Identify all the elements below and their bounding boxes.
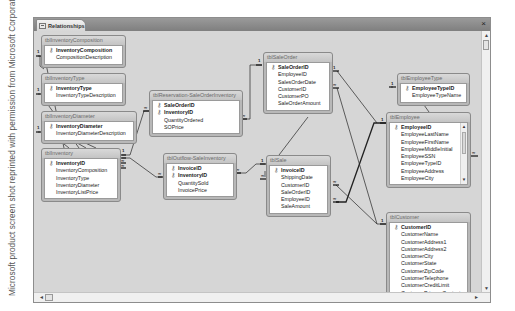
relationships-canvas[interactable]: 1 1 1 1 ∞ ∞ ∞ ∞ ∞ ∞ 1 1 ∞ 1 ∞ ∞ ∞ 1 1 1 … — [34, 31, 482, 293]
cardinality-many: ∞ — [158, 171, 161, 176]
field-row[interactable]: ⚷InventoryID — [153, 109, 239, 116]
field-row[interactable]: EmployeeMiddleInitial — [390, 146, 467, 153]
cardinality-one: 1 — [381, 117, 383, 122]
field-row[interactable]: CustomerZipCode — [390, 268, 467, 275]
cardinality-many: ∞ — [333, 196, 336, 201]
table-title[interactable]: tblInventoryDiameter — [42, 112, 136, 121]
field-row[interactable]: ⚷CustomerID — [390, 224, 467, 231]
field-row[interactable]: ⚷InventoryID — [167, 172, 233, 179]
table-title[interactable]: tblInventory — [42, 149, 120, 158]
scroll-down-icon[interactable]: ▼ — [461, 177, 467, 183]
table-title[interactable]: tblSaleOrder — [264, 53, 332, 62]
field-row[interactable]: SalesOrderDate — [267, 79, 329, 86]
scroll-up-icon[interactable]: ▲ — [483, 32, 490, 39]
field-row[interactable]: ⚷InventoryDiameter — [45, 123, 133, 130]
field-row[interactable]: EmployeeID — [270, 196, 327, 203]
field-row[interactable]: ⚷SaleOrderID — [153, 102, 239, 109]
table-title[interactable]: tblReservation-SaleOrderInventory — [150, 91, 242, 100]
primary-key-icon: ⚷ — [271, 64, 275, 71]
field-row[interactable]: EmployeeTypeID — [390, 160, 467, 167]
vertical-scrollbar[interactable]: ▲ ▼ — [481, 31, 490, 293]
scroll-left-icon[interactable]: ◄ — [38, 294, 45, 301]
tab-relationships[interactable]: Relationships — [36, 19, 86, 31]
table-inventory[interactable]: tblInventory ⚷InventoryID InventoryCompo… — [41, 148, 121, 202]
horizontal-scrollbar[interactable]: ◄ ► — [34, 292, 490, 302]
field-row[interactable]: CustomerPO — [267, 93, 329, 100]
table-inventory-type[interactable]: tblInventoryType ⚷InventoryType Inventor… — [41, 73, 126, 106]
table-inventory-composition[interactable]: tblInventoryComposition ⚷InventoryCompos… — [41, 35, 126, 68]
copyright-credit: Microsoft product screen shot reprinted … — [8, 16, 17, 296]
primary-key-icon: ⚷ — [171, 165, 175, 172]
field-row[interactable]: SaleOrderID — [270, 189, 327, 196]
field-row[interactable]: QuantitySold — [167, 180, 233, 187]
cardinality-one: 1 — [381, 218, 383, 223]
field-row[interactable]: ⚷InventoryComposition — [45, 47, 122, 54]
field-row[interactable]: CustomerAddress2 — [390, 246, 467, 253]
field-list: ⚷CustomerID CustomerName CustomerAddress… — [389, 222, 468, 293]
field-row[interactable]: InventoryListPrice — [45, 189, 117, 196]
scroll-thumb[interactable] — [483, 40, 489, 50]
field-row[interactable]: ⚷InvoiceID — [167, 165, 233, 172]
field-row[interactable]: CustomerID — [267, 86, 329, 93]
cardinality-one: 1 — [258, 58, 260, 63]
field-row[interactable]: InventoryType — [45, 175, 117, 182]
field-row[interactable]: ⚷InventoryID — [45, 160, 117, 167]
field-row[interactable]: EmployeeTypeName — [401, 92, 466, 99]
field-row[interactable]: EmployeeID — [267, 71, 329, 78]
table-sale-order[interactable]: tblSaleOrder ⚷SaleOrderID EmployeeID Sal… — [263, 52, 333, 114]
scroll-up-icon[interactable]: ▲ — [461, 124, 467, 130]
close-icon[interactable]: × — [481, 19, 486, 29]
field-row[interactable]: EmployeeFirstName — [390, 139, 467, 146]
field-row[interactable]: InventoryComposition — [45, 167, 117, 174]
table-title[interactable]: tblInventoryType — [42, 74, 125, 83]
field-row[interactable]: CustomerCreditLimit — [390, 282, 467, 289]
field-row[interactable]: SaleAmount — [270, 203, 327, 210]
table-title[interactable]: tblSale — [267, 156, 330, 165]
field-row[interactable]: CustomerID — [270, 182, 327, 189]
field-row[interactable]: EmployeeCity — [390, 175, 467, 182]
field-row[interactable]: SaleOrderAmount — [267, 100, 329, 107]
field-row[interactable]: InventoryTypeDescription — [45, 92, 122, 99]
employee-field-scrollbar[interactable]: ▲ ▼ — [460, 123, 467, 184]
cardinality-one: 1 — [37, 125, 39, 130]
table-title[interactable]: tblEmployee — [387, 113, 470, 122]
scroll-right-icon[interactable]: ► — [473, 294, 480, 301]
table-outflow-sale-inventory[interactable]: tblOutflow-SaleInventory ⚷InvoiceID ⚷Inv… — [163, 153, 237, 200]
table-employee-type[interactable]: tblEmployeeType ⚷EmployeeTypeID Employee… — [397, 73, 470, 106]
field-row[interactable]: CustomerCity — [390, 253, 467, 260]
primary-key-icon: ⚷ — [171, 172, 175, 179]
field-row[interactable]: QuantityOrdered — [153, 117, 239, 124]
scroll-thumb[interactable] — [462, 132, 466, 154]
table-title[interactable]: tblCustomer — [387, 213, 470, 222]
field-row[interactable]: CustomerState — [390, 260, 467, 267]
field-row[interactable]: CompositionDescription — [45, 54, 122, 61]
field-row[interactable]: CustomerAddress1 — [390, 239, 467, 246]
cardinality-one: 1 — [333, 65, 335, 70]
field-row[interactable]: ShippingDate — [270, 174, 327, 181]
field-row[interactable]: InventoryDiameter — [45, 182, 117, 189]
table-employee[interactable]: tblEmployee ⚷EmployeeID EmployeeLastName… — [386, 112, 471, 188]
field-row[interactable]: EmployeeSSN — [390, 153, 467, 160]
field-row[interactable]: CustomerName — [390, 231, 467, 238]
table-customer[interactable]: tblCustomer ⚷CustomerID CustomerName Cus… — [386, 212, 471, 293]
field-row[interactable]: ⚷EmployeeTypeID — [401, 85, 466, 92]
field-row[interactable]: ⚷EmployeeID — [390, 124, 467, 131]
field-row[interactable]: ⚷SaleOrderID — [267, 64, 329, 71]
field-row[interactable]: CustomerTelephone — [390, 275, 467, 282]
field-row[interactable]: InventoryDiameterDescription — [45, 130, 133, 137]
field-row[interactable]: ⚷InvoiceID — [270, 167, 327, 174]
table-reservation-sale-order-inventory[interactable]: tblReservation-SaleOrderInventory ⚷SaleO… — [149, 90, 243, 137]
table-title[interactable]: tblOutflow-SaleInventory — [164, 154, 236, 163]
scroll-thumb[interactable] — [45, 294, 53, 301]
table-sale[interactable]: tblSale ⚷InvoiceID ShippingDate Customer… — [266, 155, 331, 217]
table-inventory-diameter[interactable]: tblInventoryDiameter ⚷InventoryDiameter … — [41, 111, 137, 144]
table-title[interactable]: tblEmployeeType — [398, 74, 469, 83]
field-row[interactable]: ⚷InventoryType — [45, 85, 122, 92]
table-title[interactable]: tblInventoryComposition — [42, 36, 125, 45]
scroll-down-icon[interactable]: ▼ — [483, 285, 490, 292]
field-row[interactable]: InvoicePrice — [167, 187, 233, 194]
relationships-window: Relationships × — [33, 17, 491, 303]
field-row[interactable]: SOPrice — [153, 124, 239, 131]
field-row[interactable]: EmployeeAddress — [390, 168, 467, 175]
field-row[interactable]: EmployeeLastName — [390, 131, 467, 138]
